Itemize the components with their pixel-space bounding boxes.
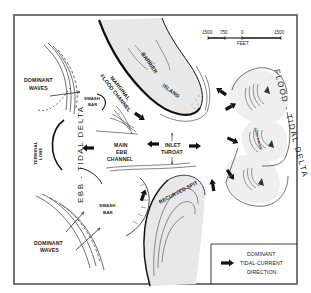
swash-bar-bottom-label-1: SWASH <box>99 203 116 208</box>
legend-line-3: DIRECTION <box>247 269 277 275</box>
main-ebb-channel-label-1: MAIN <box>114 142 128 148</box>
legend-line-1: DOMINANT <box>247 251 276 257</box>
swash-bar-bottom-label-2: BAR <box>103 210 114 215</box>
scale-tick-750: 750 <box>220 30 228 35</box>
ebb-tidal-delta-label: EBB - TIDAL DELTA <box>76 105 85 203</box>
inlet-throat-label-1: INLET <box>165 142 181 148</box>
dominant-waves-top-label-1: DOMINANT <box>24 77 53 83</box>
scale-tick-0: 0 <box>241 30 244 35</box>
scale-tick-1500-right: 1500 <box>274 30 285 35</box>
tidal-inlet-diagram: BARRIER ISLAND MARGINAL FLOOD CHANNEL 15… <box>0 0 311 293</box>
legend-line-2: TIDAL-CURRENT <box>240 260 284 266</box>
main-ebb-channel-label-2: EBB <box>116 149 127 155</box>
dominant-waves-bottom-label-2: WAVES <box>40 247 59 253</box>
swash-bar-top-label-1: SWASH <box>84 96 100 101</box>
terminal-lobe-label-2: LOBE <box>38 147 43 160</box>
dominant-waves-top-label-2: WAVES <box>29 85 48 91</box>
swash-bar-top-label-2: BAR <box>88 102 97 107</box>
scale-unit: FEET <box>237 41 249 46</box>
main-ebb-channel-label-3: CHANNEL <box>107 156 134 162</box>
inlet-throat-label-2: THROAT <box>161 149 184 155</box>
dominant-waves-bottom-label-1: DOMINANT <box>34 240 63 246</box>
scale-tick-1500-left: 1500 <box>202 30 213 35</box>
